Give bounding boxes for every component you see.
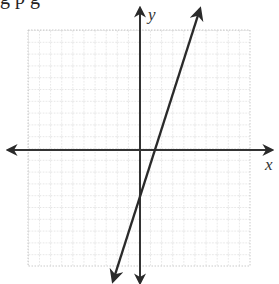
y-axis-label: y — [146, 5, 156, 24]
x-axis-label: x — [264, 155, 273, 174]
coordinate-graph: y x — [0, 0, 279, 284]
